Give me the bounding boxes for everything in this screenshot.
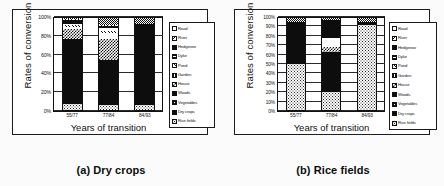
bar-segment <box>322 52 340 92</box>
panel-a-caption: (a) Dry crops <box>0 164 222 176</box>
legend-item: Road <box>172 25 214 34</box>
legend-item: Vegetables <box>172 99 214 108</box>
figure-two-stacked-bar-charts: Rates of conversion 0%20%40%60%80%100% 5… <box>0 0 444 186</box>
panel-b-frame: Rates of conversion 0%10%20%30%40%50%60%… <box>234 9 430 135</box>
bar-segment <box>99 39 118 60</box>
y-tick-label: 60% <box>41 52 51 58</box>
panel-b-caption: (b) Rice fields <box>222 164 444 176</box>
legend-item: Pond <box>392 62 436 71</box>
legend-swatch <box>172 91 177 96</box>
y-tick-label: 0% <box>268 109 275 114</box>
legend-label: Garden <box>178 73 191 77</box>
y-tick-label: 100% <box>38 14 51 20</box>
legend-swatch <box>172 119 177 124</box>
y-tick-label: 40% <box>266 71 275 76</box>
stacked-bar <box>357 17 377 111</box>
legend-label: Rice fields <box>398 121 416 125</box>
legend-swatch <box>392 121 397 126</box>
legend-item: House <box>172 80 214 89</box>
bar-segment <box>287 64 305 110</box>
legend-label: River <box>398 36 407 40</box>
panel-b-legend: RoadRiverHedgerowDykePondGardenHouseWood… <box>389 22 437 130</box>
legend-swatch <box>172 82 177 87</box>
legend-label: River <box>178 36 187 40</box>
bar-segment <box>135 105 154 110</box>
y-tick-label: 50% <box>266 62 275 67</box>
bar-segment <box>322 38 340 47</box>
legend-swatch <box>392 55 397 60</box>
legend-label: House <box>398 83 409 87</box>
panel-a-y-axis-label: Rates of conversion <box>22 0 33 98</box>
panel-b-y-axis-label: Rates of conversion <box>244 0 255 98</box>
y-tick-label: 30% <box>266 80 275 85</box>
stacked-bar <box>134 17 155 111</box>
legend-swatch <box>172 63 177 68</box>
legend-label: Pond <box>178 64 187 68</box>
legend-item: Road <box>392 25 436 34</box>
legend-swatch <box>172 100 177 105</box>
panel-b-plot-area: 0%10%20%30%40%50%60%70%80%90%100% 55/777… <box>277 17 385 112</box>
legend-label: Dyke <box>398 55 407 59</box>
legend-label: Hedgerow <box>178 45 196 49</box>
legend-item: Dyke <box>392 53 436 62</box>
legend-swatch <box>392 73 397 78</box>
legend-label: Pond <box>398 64 407 68</box>
bar-segment <box>99 105 118 110</box>
bar-segment <box>287 22 305 64</box>
panel-a-legend: RoadRiverHedgerowDykePondGardenHouseWood… <box>169 22 215 128</box>
panel-rice-fields: Rates of conversion 0%10%20%30%40%50%60%… <box>222 0 444 186</box>
y-tick-label: 80% <box>41 33 51 39</box>
legend-label: Road <box>178 27 187 31</box>
legend-label: Vegetables <box>178 101 197 105</box>
x-tick-label: 84/93 <box>130 113 160 118</box>
panel-a-x-tick-labels: 55/7777/8484/93 <box>54 113 163 118</box>
bar-segment <box>63 104 82 110</box>
legend-label: Vegetables <box>398 102 417 106</box>
legend-item: Hedgerow <box>172 43 214 52</box>
legend-item: Garden <box>172 71 214 80</box>
panel-a-x-axis-label: Years of transition <box>54 122 163 133</box>
stacked-bar <box>321 17 341 111</box>
stacked-bar <box>286 17 306 111</box>
panel-b-x-axis-label: Years of transition <box>278 122 385 133</box>
legend-item: Woods <box>392 91 436 100</box>
legend-item: River <box>172 34 214 43</box>
y-tick-label: 10% <box>266 99 275 104</box>
bar-segment <box>99 18 118 25</box>
legend-swatch <box>392 92 397 97</box>
legend-item: Garden <box>392 72 436 81</box>
bar-segment <box>99 60 118 105</box>
panel-dry-crops: Rates of conversion 0%20%40%60%80%100% 5… <box>0 0 222 186</box>
legend-label: Dry crops <box>398 112 415 116</box>
panel-a-bars <box>54 17 163 111</box>
panel-b-x-tick-labels: 55/7777/8484/93 <box>278 113 385 118</box>
legend-label: Hedgerow <box>398 46 416 50</box>
x-tick-label: 84/93 <box>352 113 382 118</box>
legend-label: Road <box>398 27 407 31</box>
legend-item: Dyke <box>172 52 214 61</box>
legend-item: House <box>392 81 436 90</box>
stacked-bar <box>98 17 119 111</box>
legend-label: Garden <box>398 74 411 78</box>
y-tick-label: 40% <box>41 70 51 76</box>
bar-segment <box>135 24 154 105</box>
legend-swatch <box>172 110 177 115</box>
panel-a-frame: Rates of conversion 0%20%40%60%80%100% 5… <box>12 9 208 135</box>
x-tick-label: 55/77 <box>281 113 311 118</box>
x-tick-label: 77/84 <box>93 113 123 118</box>
legend-item: Rice fields <box>392 119 436 128</box>
y-tick-label: 100% <box>263 15 275 20</box>
legend-swatch <box>392 26 397 31</box>
legend-item: Vegetables <box>392 100 436 109</box>
legend-item: River <box>392 34 436 43</box>
legend-label: Dyke <box>178 54 187 58</box>
x-tick-label: 55/77 <box>57 113 87 118</box>
legend-label: Dry crops <box>178 110 195 114</box>
panel-a-plot-area: 0%20%40%60%80%100% 55/7777/8484/93 Years… <box>53 17 163 112</box>
bar-segment <box>63 29 82 39</box>
x-tick-label: 77/84 <box>316 113 346 118</box>
legend-swatch <box>172 26 177 31</box>
bar-segment <box>358 25 376 110</box>
legend-swatch <box>392 45 397 50</box>
legend-item: Dry crops <box>392 109 436 118</box>
